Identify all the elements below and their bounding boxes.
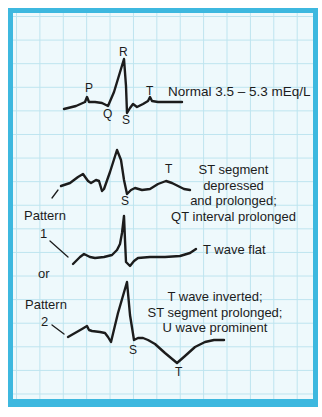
pattern1-number: 1 [40, 226, 47, 241]
description-line: T wave inverted; [145, 289, 285, 305]
pattern2-t-wave-label: T [175, 366, 182, 378]
description-line: and prolonged; [170, 193, 297, 209]
description-line: ST segment prolonged; [145, 305, 285, 321]
pattern2-description: T wave inverted; ST segment prolonged; U… [145, 289, 285, 336]
normal-ecg-trace [64, 59, 182, 113]
pattern1-label: Pattern [24, 208, 66, 223]
description-line: QT interval prolonged [170, 209, 297, 225]
pattern1-leader-upper [52, 190, 58, 198]
pattern1-description-b: T wave flat [203, 242, 266, 257]
pattern2-s-wave-label: S [129, 344, 137, 356]
description-line: U wave prominent [145, 320, 285, 336]
normal-s-wave-label: S [122, 114, 130, 126]
normal-p-wave-label: P [85, 82, 93, 94]
normal-range-caption: Normal 3.5 – 5.3 mEq/L [168, 84, 311, 99]
description-line: depressed [170, 178, 297, 194]
pattern1-s-wave-label: S [121, 195, 129, 207]
pattern2-label: Pattern [25, 297, 67, 312]
pattern1-description-a: ST segment depressed and prolonged; QT i… [170, 162, 297, 224]
normal-t-wave-label: T [146, 85, 153, 97]
normal-r-wave-label: R [119, 46, 128, 58]
pattern2-number: 2 [41, 314, 48, 329]
pattern1-leader-lower [50, 241, 68, 257]
description-line: ST segment [170, 162, 297, 178]
or-connector: or [38, 266, 50, 281]
pattern2-leader [52, 325, 64, 334]
normal-q-wave-label: Q [103, 108, 112, 120]
